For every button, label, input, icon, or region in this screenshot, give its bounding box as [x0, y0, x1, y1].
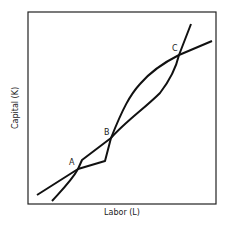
point-label-a: A: [69, 158, 74, 167]
plot-frame: [28, 12, 216, 204]
diagram-canvas: [0, 0, 229, 228]
point-label-b: B: [104, 128, 110, 137]
curve-1: [37, 41, 212, 195]
x-axis-label: Labor (L): [104, 208, 140, 217]
y-axis-label: Capital (K): [11, 87, 20, 129]
point-label-c: C: [172, 44, 178, 53]
